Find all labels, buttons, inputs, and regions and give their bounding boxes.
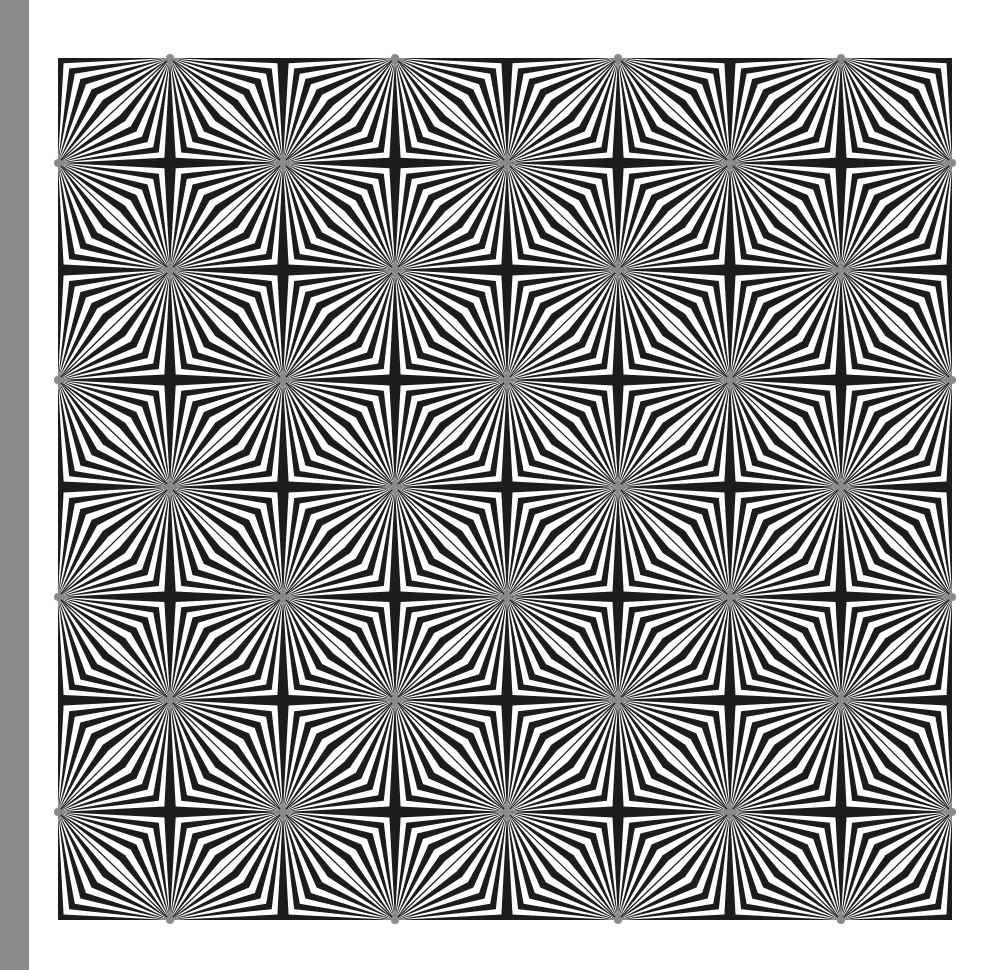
starburst-hub: [503, 808, 511, 816]
lens-cell: [283, 487, 395, 597]
starburst-hub: [614, 266, 622, 274]
starburst-hub: [726, 593, 734, 601]
starburst-hub: [391, 483, 399, 491]
lens-cell: [618, 700, 730, 812]
lens-cell: [730, 380, 841, 487]
lens-cell: [507, 597, 618, 700]
lens-cell: [170, 597, 283, 700]
lens-cell: [170, 163, 283, 270]
lens-cell: [507, 163, 618, 270]
starburst-hub: [614, 483, 622, 491]
starburst-hub: [503, 159, 511, 167]
lens-cell: [730, 812, 841, 920]
lens-cell: [841, 487, 952, 597]
starburst-hub: [166, 916, 174, 924]
lens-cell: [395, 700, 507, 812]
starburst-hub: [837, 54, 845, 62]
starburst-hub: [503, 376, 511, 384]
lens-cell: [58, 812, 170, 920]
starburst-hub: [726, 159, 734, 167]
lens-cell: [283, 58, 395, 163]
lens-cell: [58, 58, 170, 163]
starburst-pattern: Op-art starburst tessellation: [0, 0, 996, 970]
lens-cell: [841, 597, 952, 700]
lens-cell: [170, 58, 283, 163]
pattern-svg: [0, 0, 996, 970]
lens-cell: [283, 163, 395, 270]
lens-cell: [170, 487, 283, 597]
starburst-hub: [166, 696, 174, 704]
lens-cell: [395, 163, 507, 270]
lens-cell: [283, 700, 395, 812]
lens-cell: [395, 380, 507, 487]
starburst-hub: [279, 159, 287, 167]
starburst-hub: [166, 266, 174, 274]
starburst-hub: [279, 808, 287, 816]
lens-cell: [618, 812, 730, 920]
lens-cell: [507, 58, 618, 163]
lens-cell: [58, 163, 170, 270]
lens-cell: [283, 270, 395, 380]
starburst-hub: [726, 376, 734, 384]
starburst-hub: [279, 376, 287, 384]
starburst-hub: [948, 376, 956, 384]
lens-cell: [618, 380, 730, 487]
lens-cell: [170, 380, 283, 487]
starburst-hub: [948, 808, 956, 816]
starburst-hub: [837, 696, 845, 704]
starburst-hub: [279, 593, 287, 601]
lens-cell: [283, 597, 395, 700]
lens-cell: [841, 270, 952, 380]
lens-cell: [507, 380, 618, 487]
lens-cell: [58, 597, 170, 700]
lens-cell: [58, 270, 170, 380]
starburst-hub: [166, 483, 174, 491]
lens-cell: [730, 597, 841, 700]
starburst-hub: [837, 916, 845, 924]
lens-cell: [730, 58, 841, 163]
lens-cell: [841, 700, 952, 812]
starburst-hub: [54, 593, 62, 601]
lens-cell: [170, 812, 283, 920]
lens-cell: [395, 487, 507, 597]
lens-cell: [395, 597, 507, 700]
lens-cell: [730, 270, 841, 380]
lens-cell: [841, 163, 952, 270]
starburst-hub: [837, 483, 845, 491]
lens-cell: [58, 487, 170, 597]
lens-cell: [841, 380, 952, 487]
starburst-hub: [54, 376, 62, 384]
lens-cell: [730, 700, 841, 812]
lens-cell: [618, 487, 730, 597]
lens-cell: [618, 270, 730, 380]
lens-cell: [730, 487, 841, 597]
lens-cell: [58, 700, 170, 812]
starburst-hub: [837, 266, 845, 274]
starburst-hub: [948, 159, 956, 167]
lens-cell: [618, 163, 730, 270]
lens-cell: [618, 597, 730, 700]
lens-cell: [58, 380, 170, 487]
starburst-hub: [391, 54, 399, 62]
lens-cell: [618, 58, 730, 163]
lens-cell: [170, 700, 283, 812]
lens-cell: [507, 812, 618, 920]
lens-cell: [283, 380, 395, 487]
lens-cell: [507, 487, 618, 597]
lens-cell: [170, 270, 283, 380]
starburst-hub: [503, 593, 511, 601]
lens-cell: [841, 58, 952, 163]
lens-cell: [395, 270, 507, 380]
starburst-hub: [726, 808, 734, 816]
starburst-hub: [391, 696, 399, 704]
starburst-hub: [166, 54, 174, 62]
lens-cell: [283, 812, 395, 920]
starburst-hub: [54, 808, 62, 816]
starburst-hub: [54, 159, 62, 167]
lens-cell: [395, 58, 507, 163]
starburst-hub: [614, 54, 622, 62]
starburst-hub: [391, 916, 399, 924]
lens-cell: [730, 163, 841, 270]
starburst-hub: [614, 696, 622, 704]
starburst-hub: [948, 593, 956, 601]
